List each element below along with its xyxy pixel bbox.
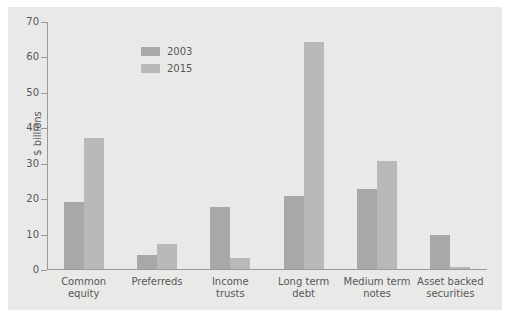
y-axis-tick-label: 20 [9,194,39,204]
bar-group [284,22,324,269]
bar-2015[interactable] [84,138,104,269]
y-axis-title: $ billions [32,89,43,179]
y-axis-tick [41,199,47,200]
bar-2003[interactable] [284,196,304,269]
x-axis-label-line: Asset backed [402,276,498,288]
y-axis-tick-label: 60 [9,52,39,62]
bar-group [137,22,177,269]
y-axis-tick [41,270,47,271]
plot-area: 20032015 [47,22,487,270]
bar-2003[interactable] [357,189,377,269]
x-axis-tick-label: Asset backedsecurities [402,276,498,300]
y-axis-tick [41,164,47,165]
y-axis-tick-label: 70 [9,17,39,27]
y-axis-tick [41,128,47,129]
bar-2003[interactable] [64,202,84,269]
bar-2003[interactable] [430,235,450,269]
y-axis-tick [41,235,47,236]
x-axis-label-line: securities [402,288,498,300]
y-axis-spine [47,22,48,270]
bar-2015[interactable] [304,42,324,269]
bar-2003[interactable] [210,207,230,269]
y-axis-tick-label: 0 [9,265,39,275]
bar-2015[interactable] [230,258,250,269]
y-axis-tick [41,57,47,58]
bar-group [210,22,250,269]
bar-2015[interactable] [377,161,397,269]
bar-2015[interactable] [157,244,177,269]
bar-2015[interactable] [450,267,470,269]
bar-2003[interactable] [137,255,157,269]
y-axis-tick [41,93,47,94]
bar-group [357,22,397,269]
y-axis-tick [41,22,47,23]
x-axis-label-line: equity [36,288,132,300]
bar-group [64,22,104,269]
x-axis-spine [47,269,487,270]
chart-figure: 010203040506070 $ billions 20032015 Comm… [0,0,510,317]
y-axis-tick-label: 10 [9,230,39,240]
bar-group [430,22,470,269]
